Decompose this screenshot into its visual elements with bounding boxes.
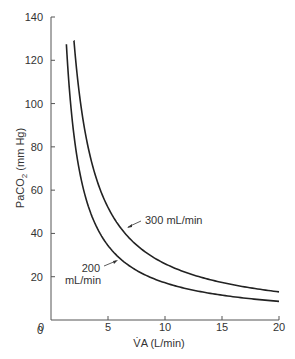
y-tick-label: 60 bbox=[31, 184, 43, 196]
chart: 020406080100120140 05101520 V̇A (L/min) … bbox=[0, 0, 295, 359]
y-ticks: 020406080100120140 bbox=[25, 11, 55, 336]
y-tick-label: 120 bbox=[25, 54, 43, 66]
y-axis-label: PaCO2 (mm Hg) bbox=[14, 128, 29, 208]
y-tick-label: 140 bbox=[25, 11, 43, 23]
x-tick-label: 10 bbox=[159, 321, 171, 333]
annotation-300-label: 300 mL/min bbox=[145, 214, 202, 226]
y-tick-label: 80 bbox=[31, 141, 43, 153]
curve-300-ml-min bbox=[74, 41, 279, 292]
annotation-200-label-line1: 200 bbox=[82, 262, 100, 274]
y-tick-label: 100 bbox=[25, 98, 43, 110]
x-tick-label: 5 bbox=[105, 321, 111, 333]
x-tick-label: 15 bbox=[216, 321, 228, 333]
annotation-200-label-line2: mL/min bbox=[65, 274, 101, 286]
x-ticks: 05101520 bbox=[38, 316, 285, 333]
x-axis-label: V̇A (L/min) bbox=[133, 337, 184, 349]
x-tick-label: 20 bbox=[273, 321, 285, 333]
y-tick-label: 40 bbox=[31, 227, 43, 239]
annotation-200: 200 mL/min bbox=[65, 260, 118, 286]
annotation-300: 300 mL/min bbox=[127, 214, 202, 228]
x-tick-label: 0 bbox=[38, 321, 44, 333]
y-tick-label: 20 bbox=[31, 271, 43, 283]
